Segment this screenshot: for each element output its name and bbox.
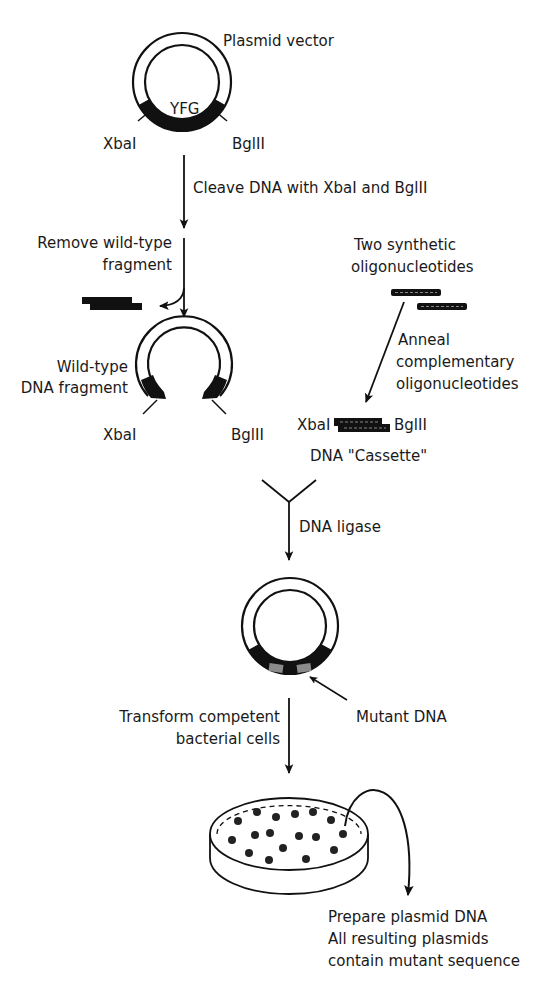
cassette-label: DNA "Cassette": [310, 447, 427, 465]
cassette-xbai-label: XbaI: [297, 416, 330, 434]
final-label-line2: All resulting plasmids: [328, 930, 489, 948]
ligase-label: DNA ligase: [299, 518, 381, 536]
bglii-site-label-1: BglII: [232, 135, 265, 153]
remove-label-line1: Remove wild-type: [37, 234, 172, 252]
transform-label-line2: bacterial cells: [176, 730, 280, 748]
final-label-line3: contain mutant sequence: [328, 952, 520, 970]
remove-label-line2: fragment: [103, 256, 173, 274]
oligos-label-line2: oligonucleotides: [351, 258, 474, 276]
final-label-line1: Prepare plasmid DNA: [328, 908, 488, 926]
wild-type-label-line1: Wild-type: [57, 358, 128, 376]
mutant-dna-label: Mutant DNA: [356, 708, 447, 726]
mutant-plasmid: [242, 578, 347, 700]
bglii-site-label-2: BglII: [231, 426, 264, 444]
dna-cassette-icon: [334, 418, 390, 432]
xbai-site-label-1: XbaI: [103, 135, 136, 153]
wild-type-label-line2: DNA fragment: [21, 379, 128, 397]
cassette-mutagenesis-diagram: Plasmid vector YFG XbaI BglII Cleave DNA…: [0, 0, 548, 991]
cassette-bglii-label: BglII: [394, 416, 427, 434]
wild-type-fragment-icon: [82, 297, 142, 310]
cut-plasmid: [136, 316, 232, 414]
cleave-label: Cleave DNA with XbaI and BglII: [193, 179, 427, 197]
anneal-label-line2: complementary: [396, 353, 515, 371]
xbai-site-label-2: XbaI: [103, 426, 136, 444]
plasmid-vector-label: Plasmid vector: [223, 32, 335, 50]
oligos-label-line1: Two synthetic: [353, 236, 456, 254]
anneal-label-line1: Anneal: [398, 331, 450, 349]
yfg-label: YFG: [169, 100, 199, 118]
anneal-label-line3: oligonucleotides: [396, 375, 519, 393]
petri-dish-icon: [210, 798, 368, 894]
transform-label-line1: Transform competent: [118, 708, 280, 726]
